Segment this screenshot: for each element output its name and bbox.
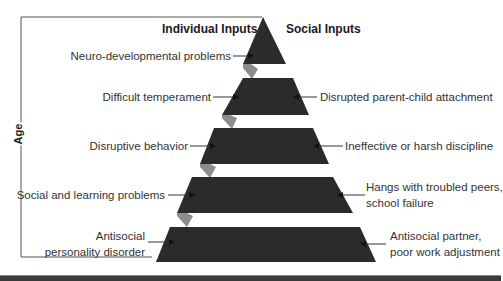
individual-inputs-header: Individual Inputs xyxy=(162,22,257,36)
tier-shadow-1 xyxy=(243,64,258,79)
social-label-discipline: Ineffective or harsh discipline xyxy=(345,138,493,154)
social-label-attachment: Disrupted parent-child attachment xyxy=(320,89,493,105)
social-inputs-header: Social Inputs xyxy=(286,22,361,36)
individual-label-temperament: Difficult temperament xyxy=(103,89,211,105)
individual-label-antisocial-pd: Antisocial personality disorder xyxy=(45,228,145,260)
pyramid-tier-4 xyxy=(177,177,353,213)
individual-label-antisocial-pd-line1: Antisocial xyxy=(45,228,145,244)
pyramid-tier-5 xyxy=(156,227,376,262)
tier-shadow-2 xyxy=(222,115,237,129)
tier-shadow-4 xyxy=(177,213,193,227)
tier-shadow-3 xyxy=(200,164,216,178)
social-label-peers: Hangs with troubled peers, school failur… xyxy=(366,179,503,211)
individual-label-social-learning: Social and learning problems xyxy=(17,187,165,203)
individual-label-neuro: Neuro-developmental problems xyxy=(71,48,231,64)
social-arrows xyxy=(293,94,386,247)
individual-label-antisocial-pd-line2: personality disorder xyxy=(45,244,145,260)
social-label-partner-line2: poor work adjustment xyxy=(390,244,500,260)
social-label-partner: Antisocial partner, poor work adjustment xyxy=(390,228,500,260)
pyramid-tier-3 xyxy=(200,128,329,164)
individual-label-disruptive: Disruptive behavior xyxy=(90,138,188,154)
bottom-divider-bar xyxy=(0,275,501,281)
age-axis-label: Age xyxy=(12,123,24,146)
social-label-peers-line1: Hangs with troubled peers, xyxy=(366,179,503,195)
social-label-peers-line2: school failure xyxy=(366,195,503,211)
social-label-partner-line1: Antisocial partner, xyxy=(390,228,500,244)
